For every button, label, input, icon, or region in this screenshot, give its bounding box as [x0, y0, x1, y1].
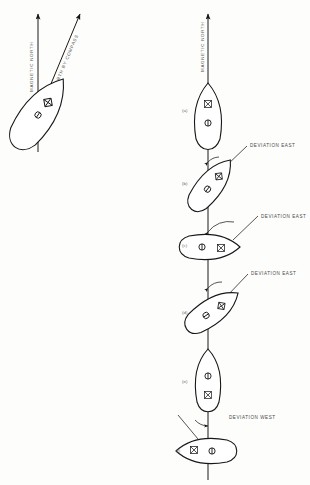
deviation-label-d: DEVIATION EAST [251, 271, 296, 276]
vessel-index-d: (d) [182, 310, 188, 315]
right-magnetic-north-label: MAGNETIC NORTH [200, 22, 205, 72]
left-magnetic-north-label: MAGNETIC NORTH [29, 42, 34, 92]
deviation-label-c: DEVIATION EAST [261, 214, 306, 219]
vessel-index-a: (a) [182, 108, 188, 113]
deviation-label-b: DEVIATION EAST [250, 143, 295, 148]
vessel-index-b: (b) [182, 181, 188, 186]
deviation-label-f: DEVIATION WEST [229, 415, 276, 420]
canvas-background [0, 0, 310, 485]
vessel-index-e: (e) [182, 379, 188, 384]
vessel-index-f: (f) [176, 448, 181, 453]
vessel-index-c: (c) [182, 243, 188, 248]
figure-canvas: MAGNETIC NORTH NORTH BY COMPASS MAGNETIC… [0, 0, 310, 485]
